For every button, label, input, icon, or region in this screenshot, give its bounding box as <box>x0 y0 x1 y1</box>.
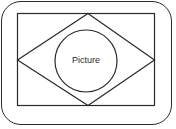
picture-label: Picture <box>56 54 116 66</box>
